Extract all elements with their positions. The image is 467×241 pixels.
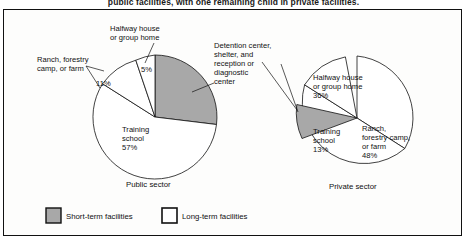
pct-private-halfway: 36%: [313, 91, 328, 100]
pie-chart-figure: Halfway house or group home 5% Ranch, fo…: [0, 0, 467, 241]
slice-public-detention[interactable]: [155, 55, 217, 125]
label-public-halfway-line2: or group home: [110, 33, 159, 42]
legend-label-short-term: Short-term facilities: [66, 212, 133, 221]
label-detention-line2: shelter, and: [214, 50, 253, 59]
leader-lines-private: [262, 62, 298, 112]
label-detention-line3: reception or: [214, 59, 255, 68]
label-detention-line5: center: [214, 77, 236, 86]
label-public-training-line2: school: [122, 134, 144, 143]
label-private-halfway-line2: or group home: [313, 82, 362, 91]
label-sector-public: Public sector: [126, 180, 171, 189]
leader-private-detention-b: [281, 64, 298, 112]
label-public-halfway-line1: Halfway house: [110, 24, 160, 33]
label-private-training-line1: Training: [313, 127, 340, 136]
label-private-training-line2: school: [313, 136, 335, 145]
label-private-ranch-line1: Ranch,: [362, 124, 386, 133]
label-detention-line4: diagnostic: [214, 68, 248, 77]
legend-label-long-term: Long-term facilities: [182, 212, 248, 221]
label-private-ranch-line3: or farm: [362, 142, 386, 151]
pie-public-sector: [93, 55, 217, 179]
chart-legend: Short-term facilities Long-term faciliti…: [46, 208, 248, 223]
legend-swatch-short-term[interactable]: [46, 208, 61, 223]
pct-public-ranch: 11%: [96, 79, 111, 88]
pct-public-halfway: 5%: [141, 65, 152, 74]
label-detention-line1: Detention center,: [214, 41, 271, 50]
pct-public-training: 57%: [122, 143, 137, 152]
label-private-halfway-line1: Halfway house: [313, 73, 363, 82]
pct-private-ranch: 48%: [362, 151, 377, 160]
legend-swatch-long-term[interactable]: [162, 208, 177, 223]
label-sector-private: Private sector: [329, 182, 377, 191]
leader-private-detention-a: [262, 62, 297, 110]
label-public-ranch-line1: Ranch, forestry: [37, 55, 89, 64]
label-private-ranch-line2: forestry camp,: [362, 133, 410, 142]
pct-private-training: 13%: [313, 145, 328, 154]
label-public-ranch-line2: camp, or farm: [37, 64, 84, 73]
label-public-training-line1: Training: [122, 125, 149, 134]
